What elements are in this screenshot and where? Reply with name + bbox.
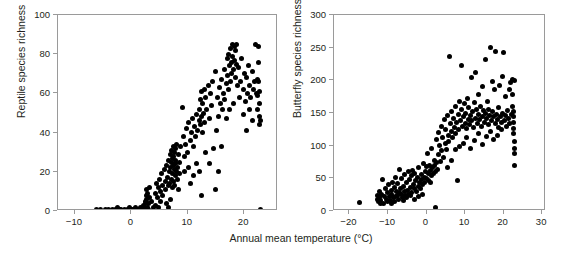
data-point — [445, 165, 450, 170]
data-point — [476, 92, 481, 97]
x-tick-mark — [426, 210, 427, 214]
data-point — [397, 167, 402, 172]
data-point — [483, 57, 488, 62]
data-point — [429, 146, 434, 151]
data-point — [455, 178, 460, 183]
y-tick-label: 0 — [299, 205, 326, 216]
data-point — [393, 194, 398, 199]
x-tick-label: 10 — [459, 216, 470, 227]
x-tick-label: 20 — [497, 216, 508, 227]
data-point — [443, 127, 448, 132]
x-tick-mark — [464, 210, 465, 214]
y-tick-mark — [329, 112, 333, 113]
y-tick-mark — [329, 47, 333, 48]
data-point — [464, 135, 469, 140]
data-point — [499, 127, 504, 132]
data-point — [428, 180, 433, 185]
data-point — [441, 155, 446, 160]
data-point — [459, 63, 464, 68]
x-tick-label: −20 — [340, 216, 356, 227]
plot-area-right — [334, 15, 544, 209]
data-point — [380, 177, 385, 182]
x-axis-title-shared: Annual mean temperature (°C) — [229, 232, 372, 244]
data-point — [512, 78, 517, 83]
x-tick-mark — [387, 210, 388, 214]
data-point — [496, 105, 501, 110]
data-point — [453, 131, 458, 136]
data-point — [473, 70, 478, 75]
plot-frame-right — [333, 14, 545, 210]
data-point — [469, 75, 474, 80]
x-tick-label: 0 — [423, 216, 428, 227]
y-tick-label: 250 — [299, 41, 326, 52]
data-point — [512, 151, 517, 156]
data-point — [444, 147, 449, 152]
data-point — [472, 100, 477, 105]
data-point — [425, 151, 430, 156]
x-tick-mark — [503, 210, 504, 214]
data-point — [512, 139, 517, 144]
data-point — [488, 45, 493, 50]
x-tick-label: 30 — [536, 216, 547, 227]
data-point — [461, 141, 466, 146]
data-point — [476, 131, 481, 136]
x-tick-mark — [348, 210, 349, 214]
data-point — [495, 133, 500, 138]
y-tick-label: 150 — [299, 107, 326, 118]
data-point — [465, 96, 470, 101]
y-tick-mark — [329, 79, 333, 80]
data-point — [393, 175, 398, 180]
data-point — [434, 137, 439, 142]
data-point — [480, 142, 485, 147]
x-tick-mark — [541, 210, 542, 214]
data-point — [511, 114, 516, 119]
y-tick-label: 100 — [299, 139, 326, 150]
y-tick-label: 200 — [299, 74, 326, 85]
data-point — [480, 84, 485, 89]
x-tick-label: −10 — [379, 216, 395, 227]
y-tick-mark — [329, 14, 333, 15]
data-point — [445, 113, 450, 118]
data-point — [436, 130, 441, 135]
panel-right-butterfly: −20−100102030050100150200250300 Butterfl… — [0, 0, 570, 256]
data-point — [440, 135, 445, 140]
data-point — [357, 200, 362, 205]
data-point — [401, 198, 406, 203]
data-point — [446, 139, 451, 144]
data-point — [468, 146, 473, 151]
data-point — [456, 112, 461, 117]
data-point — [418, 186, 423, 191]
data-point — [490, 79, 495, 84]
y-tick-label: 50 — [299, 172, 326, 183]
data-point — [450, 135, 455, 140]
data-point — [449, 158, 454, 163]
y-tick-mark — [329, 145, 333, 146]
data-point — [500, 74, 505, 79]
data-point — [412, 197, 417, 202]
y-tick-label: 300 — [299, 9, 326, 20]
data-point — [449, 109, 454, 114]
data-point — [472, 138, 477, 143]
data-point — [492, 87, 497, 92]
data-point — [453, 104, 458, 109]
data-point — [503, 94, 508, 99]
data-point — [378, 201, 383, 206]
figure-scatter-panels: −1001020020406080100 Reptile species ric… — [0, 0, 570, 256]
data-point — [512, 163, 517, 168]
data-point — [433, 169, 438, 174]
y-axis-title-right: Butterfly species richness — [291, 0, 303, 118]
data-point — [488, 129, 493, 134]
data-point — [497, 83, 502, 88]
y-tick-mark — [329, 177, 333, 178]
data-point — [511, 120, 516, 125]
data-point — [501, 50, 506, 55]
data-point — [510, 92, 515, 97]
data-point — [484, 134, 489, 139]
y-tick-mark — [329, 210, 333, 211]
data-point — [511, 131, 516, 136]
data-point — [485, 99, 490, 104]
data-point — [511, 109, 516, 114]
data-point — [433, 205, 438, 209]
data-point — [416, 165, 421, 170]
data-point — [493, 49, 498, 54]
